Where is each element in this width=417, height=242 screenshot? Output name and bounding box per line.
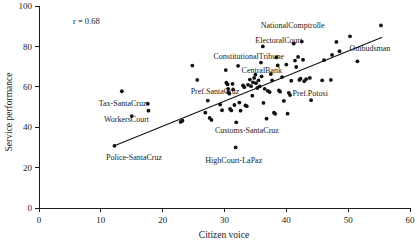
x-tick-label: 20 <box>158 215 168 225</box>
data-point <box>210 118 214 122</box>
point-label: HighCourt-LaPaz <box>205 156 262 165</box>
data-point <box>147 109 151 113</box>
data-point <box>226 82 230 86</box>
point-label: NationalComptrolle <box>261 21 325 30</box>
data-point <box>309 98 313 102</box>
point-label: Pref.SantaCruz <box>191 87 240 96</box>
y-axis-title: Service performance <box>4 73 14 152</box>
data-point <box>289 79 293 83</box>
data-point <box>248 78 252 82</box>
x-tick-label: 0 <box>37 215 42 225</box>
plot-area: 0204060801000102030405060 NationalComptr… <box>0 0 417 242</box>
y-tick-label: 80 <box>23 42 33 52</box>
correlation-annotation: r = 0.68 <box>73 16 100 26</box>
data-point <box>249 84 253 88</box>
data-point <box>268 90 272 94</box>
data-point <box>278 90 282 94</box>
data-point <box>234 120 238 124</box>
axis-tick-labels: 0204060801000102030405060 <box>19 1 416 225</box>
data-point <box>284 63 288 67</box>
data-point <box>308 76 312 80</box>
data-point <box>299 77 303 81</box>
point-label: Customs-SantaCruz <box>215 126 279 135</box>
data-point <box>120 89 124 93</box>
data-point <box>262 101 266 105</box>
data-point <box>232 103 236 107</box>
data-point <box>190 64 194 68</box>
data-point <box>338 49 342 53</box>
data-point <box>348 34 352 38</box>
y-tick-label: 20 <box>23 163 33 173</box>
data-point <box>181 119 185 123</box>
data-point <box>231 82 235 86</box>
data-point <box>220 108 224 112</box>
x-tick-label: 40 <box>282 215 292 225</box>
data-point <box>304 77 308 81</box>
y-tick-label: 40 <box>23 122 33 132</box>
y-tick-label: 60 <box>23 82 33 92</box>
data-point <box>379 23 383 27</box>
data-point <box>288 93 292 97</box>
chart-annotations: r = 0.68 <box>73 16 100 26</box>
data-point <box>294 65 298 69</box>
data-point <box>203 111 207 115</box>
x-tick-label: 10 <box>96 215 106 225</box>
scatter-chart: 0204060801000102030405060 NationalComptr… <box>0 0 417 242</box>
x-tick-label: 60 <box>406 215 416 225</box>
point-label: ConstitutionalTribune <box>213 52 284 61</box>
y-tick-label: 0 <box>28 203 33 213</box>
data-point <box>320 78 324 82</box>
data-point <box>236 64 240 68</box>
x-tick-label: 30 <box>220 215 230 225</box>
data-point <box>329 78 333 82</box>
data-point <box>282 99 286 103</box>
data-point <box>296 55 300 59</box>
point-label: WorkersCourt <box>104 115 150 124</box>
data-point <box>224 68 228 72</box>
x-axis-title: Citizen voice <box>199 230 249 240</box>
data-point <box>259 61 263 65</box>
data-point <box>195 78 199 82</box>
data-point <box>330 53 334 57</box>
data-point <box>301 58 305 62</box>
data-point <box>252 76 256 80</box>
data-point <box>293 59 297 63</box>
data-point <box>206 99 210 103</box>
data-point <box>356 59 360 63</box>
point-label: ElectoralCourt <box>255 36 303 45</box>
data-point <box>265 117 269 121</box>
data-point <box>242 85 246 89</box>
data-point <box>250 94 254 98</box>
point-label: Police-SantaCruz <box>106 153 162 162</box>
data-point <box>286 112 290 116</box>
data-point <box>234 146 238 150</box>
data-point <box>245 104 249 108</box>
data-point <box>239 109 243 113</box>
point-label: Pref.Potosi <box>293 89 329 98</box>
data-point <box>229 109 233 113</box>
data-point <box>237 101 241 105</box>
y-tick-label: 100 <box>19 1 33 11</box>
point-label: Tax-SantaCruz <box>99 99 147 108</box>
data-point <box>335 40 339 44</box>
axes <box>39 6 410 208</box>
point-label: Ombudsman <box>349 44 390 53</box>
data-point <box>257 78 261 82</box>
point-label: CentralBank <box>242 66 282 75</box>
data-point <box>273 112 277 116</box>
x-tick-label: 50 <box>344 215 354 225</box>
